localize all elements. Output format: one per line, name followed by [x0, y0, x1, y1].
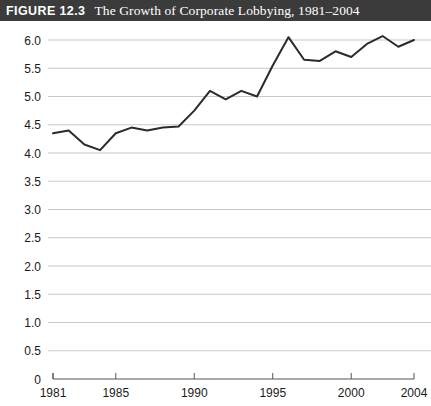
y-tick-label: 2.5: [24, 231, 41, 245]
figure-title: The Growth of Corporate Lobbying, 1981–2…: [94, 3, 359, 19]
gridlines-group: [57, 40, 431, 351]
y-tick-label: 0: [34, 373, 41, 387]
x-tick-label: 1995: [259, 386, 286, 400]
figure-header: FIGURE 12.3 The Growth of Corporate Lobb…: [0, 0, 431, 21]
y-tick-label: 5.5: [24, 62, 41, 76]
y-tick-label: 2.0: [24, 260, 41, 274]
line-chart: 6.05.55.04.54.03.53.02.52.01.51.00.50 19…: [0, 21, 431, 406]
y-axis-tick-marks: [48, 40, 57, 351]
y-tick-label: 1.0: [24, 316, 41, 330]
x-tick-label: 1990: [181, 386, 208, 400]
x-axis-tick-marks: [53, 373, 414, 379]
chart-region: 6.05.55.04.54.03.53.02.52.01.51.00.50 19…: [0, 21, 431, 406]
y-tick-label: 5.0: [24, 90, 41, 104]
y-tick-label: 4.0: [24, 147, 41, 161]
data-series-line: [53, 36, 414, 150]
y-tick-label: 0.5: [24, 344, 41, 358]
x-tick-label: 1985: [102, 386, 129, 400]
x-tick-label: 1981: [40, 386, 67, 400]
y-tick-label: 4.5: [24, 118, 41, 132]
y-tick-label: 3.5: [24, 175, 41, 189]
y-axis-tick-labels: 6.05.55.04.54.03.53.02.52.01.51.00.50: [24, 34, 41, 387]
x-axis-tick-labels: 198119851990199520002004: [40, 386, 428, 400]
y-tick-label: 6.0: [24, 34, 41, 48]
axis-lines: [53, 373, 414, 379]
x-axis-line: [53, 373, 414, 379]
x-tick-label: 2000: [338, 386, 365, 400]
x-tick-label: 2004: [401, 386, 428, 400]
y-tick-label: 3.0: [24, 203, 41, 217]
figure-number-label: FIGURE 12.3: [6, 4, 85, 18]
y-tick-label: 1.5: [24, 288, 41, 302]
